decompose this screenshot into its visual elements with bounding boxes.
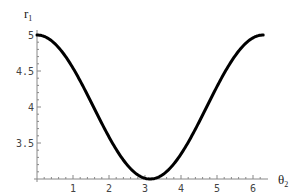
x-tick-label: 5 bbox=[214, 183, 220, 194]
x-tick-label: 4 bbox=[178, 183, 184, 194]
y-axis-label: r1 bbox=[24, 6, 32, 23]
axes bbox=[34, 30, 268, 182]
chart-plot: 1234563.544.55 r1 θ2 bbox=[0, 0, 303, 196]
y-tick-label: 3.5 bbox=[16, 138, 34, 149]
tick-labels: 1234563.544.55 bbox=[16, 30, 256, 194]
y-tick-label: 4 bbox=[28, 102, 34, 113]
x-axis-label: θ2 bbox=[278, 172, 288, 189]
y-tick-label: 4.5 bbox=[16, 66, 34, 77]
x-tick-label: 2 bbox=[106, 183, 112, 194]
x-tick-label: 6 bbox=[250, 183, 256, 194]
data-curve bbox=[37, 35, 263, 179]
x-tick-label: 1 bbox=[70, 183, 76, 194]
x-tick-label: 3 bbox=[142, 183, 148, 194]
tick-marks bbox=[37, 35, 260, 179]
y-tick-label: 5 bbox=[28, 30, 34, 41]
